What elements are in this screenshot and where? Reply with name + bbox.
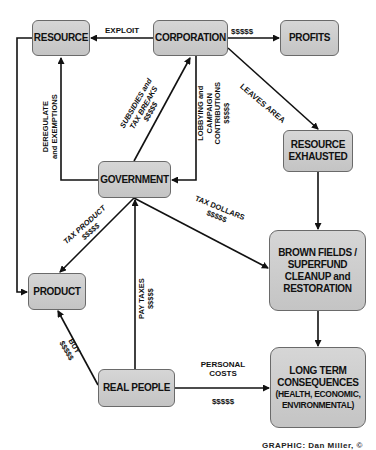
node-resource: RESOURCE (32, 20, 90, 56)
node-real-people-label: REAL PEOPLE (103, 382, 170, 394)
node-product: PRODUCT (28, 273, 86, 310)
node-corporation: CORPORATION (153, 20, 228, 56)
node-brownfields-line4: RESTORATION (283, 283, 352, 295)
node-brownfields-line1: BROWN FIELDS / (278, 247, 357, 259)
node-real-people: REAL PEOPLE (98, 369, 175, 407)
node-government: GOVERNMENT (98, 161, 171, 198)
node-resource-exhausted-line1: RESOURCE (291, 139, 345, 151)
node-brownfields-line3: CLEANUP and (285, 271, 350, 283)
node-product-label: PRODUCT (33, 286, 80, 298)
node-long-term-line3: (HEALTH, ECONOMIC, (275, 389, 360, 399)
node-corporation-label: CORPORATION (155, 32, 226, 44)
node-long-term-consequences: LONG TERM CONSEQUENCES (HEALTH, ECONOMIC… (270, 347, 366, 428)
graphic-credit: GRAPHIC: Dan Miller, © (262, 441, 363, 450)
node-long-term-line1: LONG TERM (289, 365, 346, 377)
node-profits-label: PROFITS (289, 32, 330, 44)
edge-label-pay-taxes: PAY TAXES $$$$$ (138, 269, 155, 329)
node-profits: PROFITS (280, 20, 339, 56)
node-brownfields-line2: SUPERFUND (288, 259, 348, 271)
node-resource-label: RESOURCE (34, 32, 88, 44)
edge-label-exploit: EXPLOIT (105, 26, 139, 35)
node-brownfields: BROWN FIELDS / SUPERFUND CLEANUP and RES… (269, 230, 366, 311)
node-resource-exhausted-line2: EXHAUSTED (289, 151, 348, 163)
edge-label-lobbying: LOBBYING and CAMPAIGN CONTRIBUTIONS $$$$… (197, 77, 232, 149)
edge-label-deregulate: DEREGULATE and EXEMPTIONS (42, 92, 59, 162)
edge-label-personal-costs: PERSONAL COSTS (196, 360, 250, 378)
edge-label-personal-costs-money: $$$$$ (203, 397, 243, 406)
node-resource-exhausted: RESOURCE EXHAUSTED (283, 130, 353, 172)
edge-label-profits-money: $$$$$ (231, 27, 253, 36)
node-long-term-line4: ENVIRONMENTAL) (282, 400, 354, 410)
node-long-term-line2: CONSEQUENCES (277, 377, 358, 389)
node-government-label: GOVERNMENT (100, 174, 169, 186)
